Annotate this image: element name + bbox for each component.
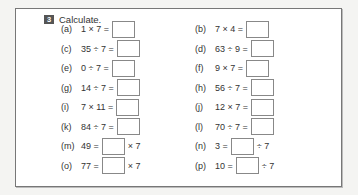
answer-box[interactable]	[251, 40, 274, 57]
answer-box[interactable]	[231, 138, 254, 155]
problem-expression: 70 ÷ 7 =	[215, 122, 248, 132]
answer-box[interactable]	[251, 99, 274, 116]
problem-suffix: × 7	[128, 141, 141, 151]
problem-expression: 9 × 7 =	[215, 63, 243, 73]
problem-expression: 7 × 11 =	[81, 102, 113, 112]
problem-suffix: × 7	[128, 161, 141, 171]
exercise-number-badge: 3	[44, 15, 54, 24]
answer-box[interactable]	[117, 79, 140, 96]
problem-expression: 0 ÷ 7 =	[81, 63, 109, 73]
problem-l: (l)70 ÷ 7 =	[195, 118, 277, 136]
problem-label: (c)	[61, 44, 78, 54]
problem-expression: 3 =	[215, 141, 228, 151]
problem-d: (d)63 ÷ 9 =	[195, 40, 277, 58]
problem-suffix: ÷ 7	[262, 161, 274, 171]
problem-expression: 63 ÷ 9 =	[215, 44, 248, 54]
problem-j: (j)12 × 7 =	[195, 98, 277, 116]
answer-box[interactable]	[246, 21, 269, 38]
problem-expression: 14 ÷ 7 =	[81, 83, 114, 93]
problem-suffix: ÷ 7	[257, 141, 269, 151]
problem-m: (m)49 =× 7	[61, 137, 141, 155]
problem-p: (p)10 =÷ 7	[195, 157, 274, 175]
problem-label: (e)	[61, 63, 78, 73]
problem-a: (a)1 × 7 =	[61, 20, 138, 38]
problem-label: (o)	[61, 161, 78, 171]
answer-box[interactable]	[246, 60, 269, 77]
answer-box[interactable]	[236, 157, 259, 174]
problem-expression: 10 =	[215, 161, 233, 171]
problem-expression: 1 × 7 =	[81, 24, 109, 34]
problem-g: (g)14 ÷ 7 =	[61, 79, 143, 97]
problem-label: (d)	[195, 44, 212, 54]
problem-label: (a)	[61, 24, 78, 34]
problem-label: (h)	[195, 83, 212, 93]
problem-expression: 84 ÷ 7 =	[81, 122, 114, 132]
answer-box[interactable]	[102, 157, 125, 174]
problem-n: (n)3 =÷ 7	[195, 137, 269, 155]
problem-expression: 56 ÷ 7 =	[215, 83, 248, 93]
answer-box[interactable]	[116, 99, 139, 116]
answer-box[interactable]	[117, 118, 140, 135]
problem-expression: 7 × 4 =	[215, 24, 243, 34]
answer-box[interactable]	[117, 40, 140, 57]
problem-b: (b)7 × 4 =	[195, 20, 272, 38]
problem-e: (e)0 ÷ 7 =	[61, 59, 138, 77]
problem-label: (m)	[61, 141, 78, 151]
problem-f: (f)9 × 7 =	[195, 59, 272, 77]
problem-label: (i)	[61, 102, 78, 112]
answer-box[interactable]	[112, 60, 135, 77]
problem-label: (f)	[195, 63, 212, 73]
answer-box[interactable]	[251, 79, 274, 96]
problem-label: (b)	[195, 24, 212, 34]
problem-c: (c)35 ÷ 7 =	[61, 40, 143, 58]
exercise-frame: 3 Calculate. (a)1 × 7 =(b)7 × 4 =(c)35 ÷…	[15, 8, 342, 187]
problem-o: (o)77 =× 7	[61, 157, 141, 175]
problem-i: (i)7 × 11 =	[61, 98, 142, 116]
problem-label: (j)	[195, 102, 212, 112]
problem-k: (k)84 ÷ 7 =	[61, 118, 143, 136]
answer-box[interactable]	[112, 21, 135, 38]
problem-label: (l)	[195, 122, 212, 132]
problem-expression: 49 =	[81, 141, 99, 151]
answer-box[interactable]	[251, 118, 274, 135]
problem-label: (n)	[195, 141, 212, 151]
problem-h: (h)56 ÷ 7 =	[195, 79, 277, 97]
answer-box[interactable]	[102, 138, 125, 155]
problem-expression: 35 ÷ 7 =	[81, 44, 114, 54]
problem-expression: 12 × 7 =	[215, 102, 248, 112]
problem-expression: 77 =	[81, 161, 99, 171]
problem-label: (k)	[61, 122, 78, 132]
problem-label: (p)	[195, 161, 212, 171]
problem-label: (g)	[61, 83, 78, 93]
